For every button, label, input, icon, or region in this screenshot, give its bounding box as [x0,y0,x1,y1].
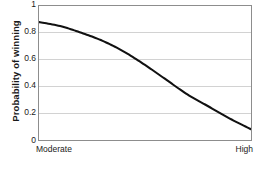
y-tick-label: 1 [14,0,36,10]
y-tick-label: 0.4 [14,80,36,91]
figure-caption [0,165,263,172]
y-tick-label: 0.8 [14,26,36,37]
y-tick-label: 0.6 [14,53,36,64]
x-axis-tick-labels: Moderate High [38,143,252,156]
x-tick-label-moderate: Moderate [36,143,72,156]
y-tick-label: 0 [14,135,36,146]
plot-area [38,5,252,141]
probability-curve [39,6,251,140]
y-axis-tick-labels: 1 0.8 0.6 0.4 0.2 0 [12,0,36,150]
chart-figure: Probability of winning 1 0.8 0.6 0.4 0.2… [0,0,263,172]
y-tick-label: 0.2 [14,107,36,118]
x-tick-label-high: High [236,143,253,156]
